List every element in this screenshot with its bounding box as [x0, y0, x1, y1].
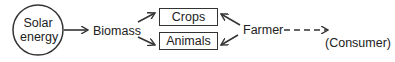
animals-label: Animals	[166, 34, 210, 48]
solar-label-line1: Solar	[20, 16, 56, 30]
crops-label: Crops	[172, 10, 205, 24]
crops-box: Crops	[159, 8, 218, 26]
biomass-label: Biomass	[93, 24, 141, 38]
consumer-label: (Consumer)	[325, 36, 391, 50]
solar-energy-label: Solar energy	[20, 16, 56, 44]
arrow-farmer-to-animals	[221, 35, 238, 45]
arrow-biomass-to-animals	[138, 37, 155, 45]
arrow-farmer-to-crops	[221, 14, 240, 25]
solar-label-line2: energy	[20, 30, 56, 44]
animals-box: Animals	[159, 32, 218, 50]
farmer-label: Farmer	[243, 23, 283, 37]
arrow-biomass-to-crops	[138, 13, 155, 22]
